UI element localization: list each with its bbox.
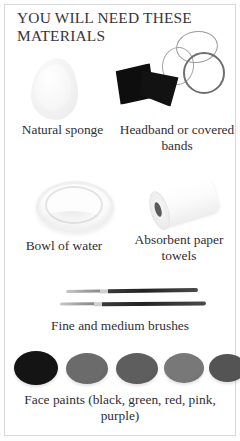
brush-handle: [108, 288, 198, 293]
caption-fine-and-medium-brushes: Fine and medium brushes: [14, 318, 226, 334]
headband-cloth-shape: [139, 67, 186, 108]
bowl-illustration: [36, 181, 108, 231]
caption-face-paints: Face paints (black, green, red, pink, pu…: [10, 392, 230, 423]
paint-brushes-illustration: [60, 288, 215, 314]
fine-brush: [66, 288, 198, 293]
caption-natural-sponge: Natural sponge: [10, 122, 115, 138]
face-paint-dot-green: [66, 353, 108, 384]
brush-tip: [60, 302, 94, 305]
caption-headband-or-covered-bands: Headband or covered bands: [118, 122, 236, 153]
face-paint-dot-red: [116, 353, 158, 384]
face-paint-dot-pink: [164, 353, 204, 383]
brush-ferrule: [94, 302, 102, 306]
face-paint-dots-illustration: [14, 350, 226, 388]
face-paint-dot-black: [14, 351, 58, 385]
headband-illustration: [112, 58, 198, 112]
brush-ferrule: [100, 289, 108, 293]
materials-page: YOU WILL NEED THESE MATERIALS: [0, 0, 240, 441]
medium-brush: [60, 301, 206, 305]
brush-handle: [102, 301, 206, 306]
caption-absorbent-paper-towels: Absorbent paper towels: [122, 232, 236, 263]
brush-tip: [66, 289, 100, 292]
face-paint-dot-purple: [209, 354, 240, 382]
bowl-shadow: [40, 211, 104, 229]
caption-bowl-of-water: Bowl of water: [8, 238, 120, 254]
